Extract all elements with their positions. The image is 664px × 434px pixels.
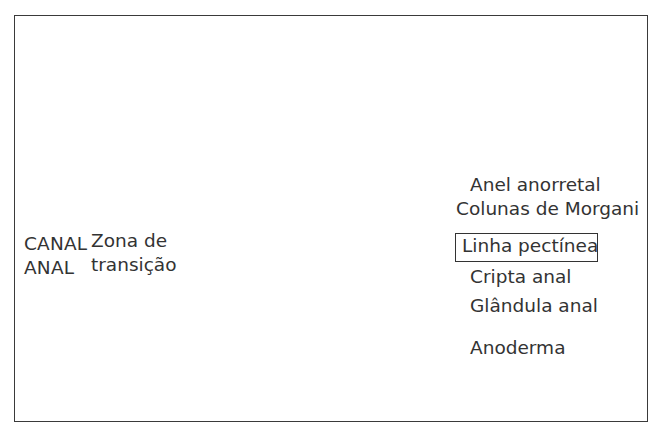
label-colunas-de-morgani: Colunas de Morgani [456,199,639,218]
label-anel-anorretal: Anel anorretal [470,175,601,194]
label-anoderma: Anoderma [470,338,565,357]
label-linha-pectinea: Linha pectínea [462,236,598,255]
label-cripta-anal: Cripta anal [470,267,571,286]
label-zona-transicao-line1: Zona de [91,231,167,250]
label-glandula-anal: Glândula anal [470,296,598,315]
anatomy-figure: Anel anorretal Colunas de Morgani Linha … [0,0,664,434]
label-zona-transicao-line2: transição [91,255,177,274]
label-canal-anal-line1: CANAL [24,234,87,253]
label-canal-anal-line2: ANAL [24,258,74,277]
